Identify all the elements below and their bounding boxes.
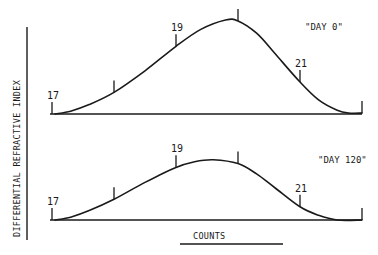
tick-label: 21	[295, 58, 307, 69]
tick-label: 19	[171, 143, 183, 154]
panel-day-120: 171921 "DAY 120"	[47, 143, 367, 220]
series-line-day-0	[55, 19, 362, 114]
tick-label: 17	[47, 90, 59, 101]
panel-label-day-120: "DAY 120"	[318, 155, 367, 165]
tick-label: 21	[295, 183, 307, 194]
chart: DIFFERENTIAL REFRACTIVE INDEX 171921 "DA…	[0, 0, 378, 255]
x-axis-label: COUNTS	[193, 231, 226, 241]
y-axis-label: DIFFERENTIAL REFRACTIVE INDEX	[12, 79, 22, 237]
panel-label-day-0: "DAY 0"	[305, 22, 343, 32]
series-line-day-120	[55, 160, 362, 221]
panel-day-0: 171921 "DAY 0"	[47, 9, 362, 114]
tick-label: 17	[47, 196, 59, 207]
tick-label: 19	[171, 22, 183, 33]
